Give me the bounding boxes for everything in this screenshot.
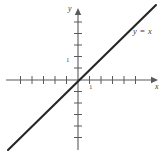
curve-equation-label: y = x: [133, 27, 152, 36]
y-axis-label: y: [68, 5, 72, 13]
x-tick-label-one: 1: [89, 84, 93, 91]
graph-figure: y x 1 1 y = x: [0, 0, 164, 155]
coordinate-plane-svg: [0, 0, 164, 155]
y-axis-arrowhead: [75, 8, 81, 15]
y-tick-label-one: 1: [66, 57, 70, 64]
x-axis-label: x: [155, 83, 159, 91]
